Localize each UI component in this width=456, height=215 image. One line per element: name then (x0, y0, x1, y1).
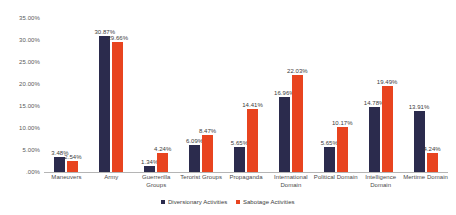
bar[interactable]: 30.87% (99, 36, 110, 172)
bar-group: 5.65%10.17% (313, 18, 358, 172)
x-axis-tick-label: Maneuvers (44, 174, 89, 182)
y-axis-tick-label: 25.00% (0, 59, 40, 65)
bar[interactable]: 14.78% (369, 107, 380, 172)
bar-group-bars: 5.65%10.17% (313, 18, 358, 172)
bar-group: 16.96%22.03% (268, 18, 313, 172)
bar-group-bars: 3.48%2.54% (44, 18, 89, 172)
y-axis-tick-label: 15.00% (0, 103, 40, 109)
bar[interactable]: 14.41% (247, 109, 258, 172)
bar-group-bars: 6.09%8.47% (179, 18, 224, 172)
bar[interactable]: 5.65% (234, 147, 245, 172)
plot-area: 3.48%2.54%30.87%29.66%1.34%4.24%6.09%8.4… (44, 18, 448, 172)
bar[interactable]: 4.24% (427, 153, 438, 172)
bar-group-bars: 5.65%14.41% (224, 18, 269, 172)
bar[interactable]: 29.66% (112, 42, 123, 173)
x-axis-tick-label: Army (89, 174, 134, 182)
bar-group-bars: 30.87%29.66% (89, 18, 134, 172)
legend-label: Diversionary Activities (168, 199, 228, 205)
x-axis-tick-label: Mertime Domain (403, 174, 448, 182)
legend-label: Sabotage Activities (243, 199, 295, 205)
bar-group: 1.34%4.24% (134, 18, 179, 172)
bar[interactable]: 6.09% (189, 145, 200, 172)
bar-value-label: 1.34% (141, 159, 158, 165)
bar-value-label: 4.24% (154, 146, 171, 152)
legend-swatch-icon (236, 200, 240, 204)
bar-group: 13.91%4.24% (403, 18, 448, 172)
x-axis-tick-label: Terorist Groups (179, 174, 224, 182)
x-axis-tick-label: Political Domain (313, 174, 358, 182)
bar-value-label: 5.65% (321, 140, 338, 146)
bar-value-label: 6.09% (186, 138, 203, 144)
bar[interactable]: 8.47% (202, 135, 213, 172)
y-axis-tick-label: 10.00% (0, 125, 40, 131)
bar[interactable]: 10.17% (337, 127, 348, 172)
x-axis-tick-label: Propaganda (224, 174, 269, 182)
y-axis-tick-label: 30.00% (0, 37, 40, 43)
bar-group-bars: 13.91%4.24% (403, 18, 448, 172)
bar-value-label: 14.41% (242, 102, 263, 108)
legend-swatch-icon (161, 200, 165, 204)
bar[interactable]: 4.24% (157, 153, 168, 172)
legend-item[interactable]: Sabotage Activities (236, 199, 294, 205)
bar[interactable]: 22.03% (292, 75, 303, 172)
x-axis-tick-label: Guerrerilla Groups (134, 174, 179, 189)
bar-value-label: 10.17% (332, 120, 353, 126)
legend-item[interactable]: Diversionary Activities (161, 199, 227, 205)
y-axis-tick-label: 20.00% (0, 81, 40, 87)
bar-group-bars: 1.34%4.24% (134, 18, 179, 172)
axis-baseline (44, 172, 448, 173)
bar-value-label: 29.66% (107, 35, 128, 41)
bar-group: 14.78%19.49% (358, 18, 403, 172)
x-axis-tick-label: International Domain (268, 174, 313, 189)
bar-group: 3.48%2.54% (44, 18, 89, 172)
bar-value-label: 4.24% (423, 146, 440, 152)
bar[interactable]: 16.96% (279, 97, 290, 172)
y-axis-tick-label: 35.00% (0, 15, 40, 21)
bar-group-bars: 14.78%19.49% (358, 18, 403, 172)
chart-legend: Diversionary ActivitiesSabotage Activiti… (0, 199, 456, 205)
bar[interactable]: 19.49% (382, 86, 393, 172)
bar-value-label: 22.03% (287, 68, 308, 74)
bar-value-label: 8.47% (199, 128, 216, 134)
bar-value-label: 19.49% (377, 79, 398, 85)
bar-group: 5.65%14.41% (224, 18, 269, 172)
x-axis-tick-label: Intelligence Domain (358, 174, 403, 189)
bar-value-label: 2.54% (64, 154, 81, 160)
bar-group: 30.87%29.66% (89, 18, 134, 172)
y-axis-tick-label: 5.00% (0, 147, 40, 153)
y-axis: 35.00%30.00%25.00%20.00%15.00%10.00%5.00… (0, 18, 40, 172)
bar[interactable]: 5.65% (324, 147, 335, 172)
y-axis-tick-label: .00% (0, 169, 40, 175)
bar-chart: 35.00%30.00%25.00%20.00%15.00%10.00%5.00… (0, 0, 456, 215)
bar-group-bars: 16.96%22.03% (268, 18, 313, 172)
x-axis: ManeuversArmyGuerrerilla GroupsTerorist … (44, 174, 448, 196)
bar[interactable]: 13.91% (414, 111, 425, 172)
bar-group: 6.09%8.47% (179, 18, 224, 172)
bar[interactable]: 2.54% (67, 161, 78, 172)
bar-value-label: 13.91% (409, 104, 430, 110)
bar-value-label: 5.65% (231, 140, 248, 146)
